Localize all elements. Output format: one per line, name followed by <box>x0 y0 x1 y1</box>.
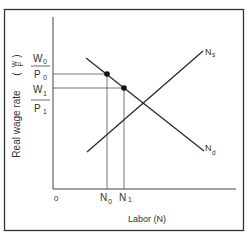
svg-text:N: N <box>205 143 212 153</box>
svg-text:N: N <box>205 47 212 57</box>
svg-text:Real wage rate: Real wage rate <box>11 90 22 158</box>
svg-text:0: 0 <box>43 58 47 65</box>
svg-text:0: 0 <box>108 198 112 205</box>
svg-text:P: P <box>34 103 41 114</box>
labor-market-diagram: Real wage rate ( W P ) W 0 P 0 W 1 P 1 0… <box>0 0 250 238</box>
svg-text:1: 1 <box>128 196 132 203</box>
svg-text:0: 0 <box>43 74 47 81</box>
origin-label: 0 <box>54 194 59 203</box>
wage-label-w1p1: W 1 P 1 <box>31 84 50 115</box>
y-axis-label: Real wage rate <box>11 90 22 158</box>
svg-text:P: P <box>17 62 24 66</box>
svg-text:N: N <box>100 192 107 203</box>
demand-curve-label: N d <box>205 143 216 156</box>
svg-text:): ) <box>11 54 22 57</box>
svg-text:1: 1 <box>43 90 47 97</box>
wage-label-w0p0: W 0 P 0 <box>31 53 50 81</box>
x-axis-label: Labor (N) <box>128 214 166 224</box>
svg-text:(: ( <box>11 72 22 76</box>
svg-text:P: P <box>34 69 41 80</box>
svg-text:d: d <box>212 149 216 156</box>
point-w0-n0 <box>104 71 110 77</box>
supply-curve-label: N s <box>205 47 216 58</box>
svg-text:N: N <box>119 192 126 203</box>
labor-label-n1: N 1 <box>119 192 132 203</box>
y-axis-symbol: ( <box>11 72 22 76</box>
svg-text:s: s <box>212 51 216 58</box>
y-axis-paren: ) <box>11 54 22 57</box>
svg-text:1: 1 <box>43 108 47 115</box>
svg-text:W: W <box>33 53 43 64</box>
labor-label-n0: N 0 <box>100 192 112 205</box>
y-axis-fraction-den: P <box>17 62 24 66</box>
point-w1-n1 <box>121 85 127 91</box>
svg-text:W: W <box>33 84 43 95</box>
